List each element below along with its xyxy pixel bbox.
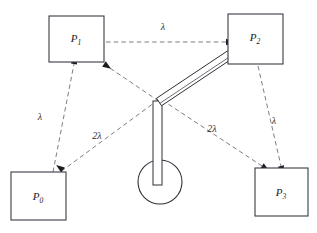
edge-label-robot-p3: 2λ [207, 123, 217, 134]
edge-label-p1-p2: λ [160, 21, 166, 32]
station-p1[interactable]: P1 [49, 16, 104, 62]
robot-manipulator [138, 42, 246, 204]
arrowhead-into-p0 [54, 162, 65, 172]
edge-label-p0-robot: 2λ [92, 130, 102, 141]
station-p3[interactable]: P3 [255, 168, 308, 216]
arrowhead-out-of-p1 [102, 61, 113, 71]
edge-p0-to-robot [63, 100, 158, 170]
edge-label-p2-p3: λ [271, 115, 277, 126]
robot-vertical-column [153, 101, 162, 185]
station-p0[interactable]: P0 [11, 172, 66, 220]
edge-p0-to-p1 [53, 64, 74, 172]
diagram-canvas: P1 P2 P0 P3 λ λ 2λ 2λ λ [0, 0, 317, 233]
robot-workcell-diagram: P1 P2 P0 P3 λ λ 2λ 2λ λ [0, 0, 317, 233]
edge-p2-to-p3 [258, 66, 281, 166]
edge-label-p0-p1: λ [37, 111, 43, 122]
edge-p1-to-robot [104, 64, 163, 104]
station-p2[interactable]: P2 [228, 14, 283, 64]
